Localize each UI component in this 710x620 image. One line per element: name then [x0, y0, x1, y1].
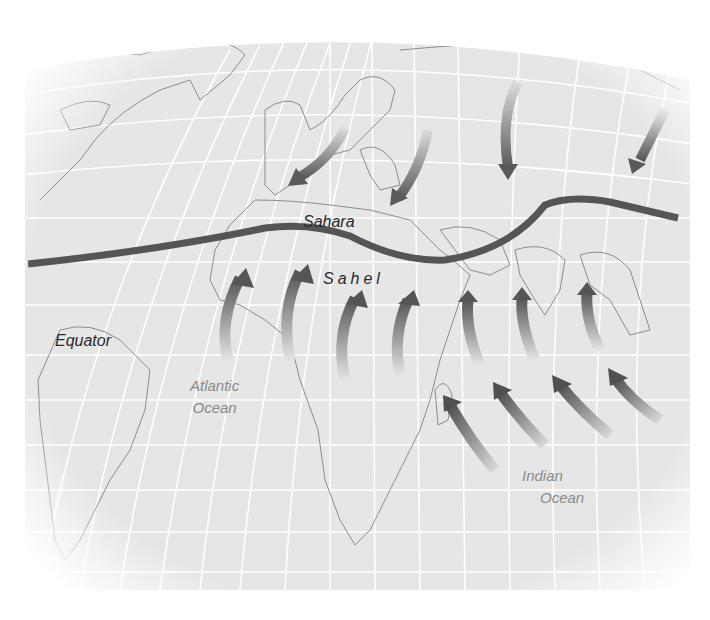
label-sahel: Sahel — [323, 270, 384, 288]
label-sahara: Sahara — [303, 213, 355, 231]
label-indian-ocean: Indian Ocean — [522, 465, 584, 509]
map-canvas — [0, 0, 710, 620]
vignette — [0, 0, 710, 620]
label-atlantic-ocean: Atlantic Ocean — [190, 375, 239, 419]
label-equator: Equator — [55, 332, 111, 350]
